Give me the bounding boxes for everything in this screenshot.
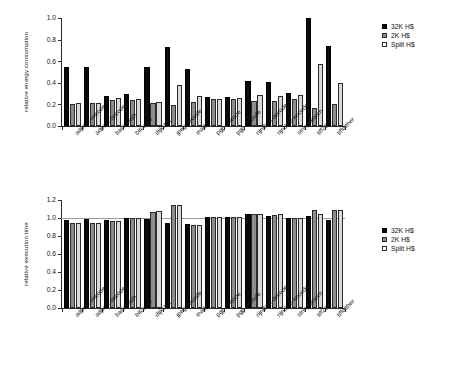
legend-label: Split H$ [391,245,415,253]
bar [70,104,75,126]
x-tick-mark [143,127,144,130]
x-tick-mark [224,127,225,130]
bar [156,211,161,308]
bar [76,223,81,308]
y-tick-label: 0.0 [36,304,56,311]
bar [205,97,210,126]
bar [64,220,69,308]
x-tick-mark [284,309,285,312]
bar [165,47,170,126]
legend-swatch-icon [382,228,387,233]
legend-execution-time: 32K H$2K H$Split H$ [382,226,415,253]
bar [326,220,331,308]
x-tick-mark [325,309,326,312]
y-tick-label: 0.2 [36,286,56,293]
legend-item: Split H$ [382,40,415,49]
bar [217,217,222,308]
chart-panel-execution-time: relative execution time 0.00.20.40.60.81… [0,186,476,367]
bar [171,105,176,126]
bar [177,205,182,308]
legend-swatch-icon [382,24,387,29]
bar [211,217,216,308]
bar [205,217,210,308]
bar [338,83,343,126]
x-tick-mark [183,127,184,130]
x-tick-mark [204,309,205,312]
legend-label: 32K H$ [391,23,414,31]
bar [104,220,109,308]
y-tick-label: 0.8 [36,232,56,239]
x-tick-mark [345,127,346,130]
bar [306,18,311,126]
bar [326,46,331,126]
y-axis-label-execution-time: relative execution time [22,200,29,308]
legend-swatch-icon [382,246,387,251]
x-tick-mark [102,309,103,312]
bar [245,214,250,308]
bar [165,223,170,308]
bar [171,205,176,309]
x-tick-mark [123,309,124,312]
y-tick-label: 1.0 [36,214,56,221]
y-tick-label: 1.2 [36,196,56,203]
legend-swatch-icon [382,42,387,47]
y-tick-label: 1.0 [36,14,56,21]
x-tick-mark [123,127,124,130]
legend-item: 2K H$ [382,235,415,244]
bar [306,216,311,308]
legend-label: 32K H$ [391,227,414,235]
plot-wrap-energy: relative energy consumption 0.00.20.40.6… [0,4,476,184]
x-tick-mark [244,309,245,312]
x-tick-mark [264,309,265,312]
bar [266,216,271,308]
x-tick-mark [204,127,205,130]
plot-wrap-execution-time: relative execution time 0.00.20.40.60.81… [0,186,476,367]
x-tick-mark [244,127,245,130]
x-tick-mark [325,127,326,130]
legend-item: 32K H$ [382,226,415,235]
bar [211,99,216,126]
legend-label: 2K H$ [391,32,410,40]
x-tick-mark [264,127,265,130]
figure-two-panel-bar-charts: relative energy consumption 0.00.20.40.6… [0,0,476,367]
x-tick-mark [82,127,83,130]
y-tick-label: 0.0 [36,122,56,129]
y-tick-label: 0.4 [36,268,56,275]
bar [286,218,291,308]
x-tick-mark [163,127,164,130]
x-tick-mark [284,127,285,130]
bar [70,223,75,308]
x-tick-mark [305,127,306,130]
x-tick-mark [143,309,144,312]
x-tick-mark [102,127,103,130]
bar [177,85,182,126]
y-axis-label-energy: relative energy consumption [22,18,29,126]
legend-item: 32K H$ [382,22,415,31]
legend-item: Split H$ [382,244,415,253]
bar [150,212,155,308]
bar [144,219,149,308]
legend-energy: 32K H$2K H$Split H$ [382,22,415,49]
x-tick-mark [305,309,306,312]
x-tick-mark [62,127,63,130]
y-tick-label: 0.6 [36,58,56,65]
x-tick-mark [345,309,346,312]
bar [64,67,69,126]
x-tick-mark [183,309,184,312]
x-tick-mark [163,309,164,312]
legend-item: 2K H$ [382,31,415,40]
legend-swatch-icon [382,237,387,242]
x-tick-mark [82,309,83,312]
bar [124,218,129,308]
y-tick-label: 0.6 [36,250,56,257]
legend-swatch-icon [382,33,387,38]
bar [225,217,230,308]
bar [136,218,141,308]
chart-panel-energy: relative energy consumption 0.00.20.40.6… [0,4,476,184]
bar [332,210,337,308]
y-tick-label: 0.8 [36,36,56,43]
legend-label: 2K H$ [391,236,410,244]
x-tick-mark [62,309,63,312]
y-tick-label: 0.2 [36,101,56,108]
bar [84,219,89,308]
